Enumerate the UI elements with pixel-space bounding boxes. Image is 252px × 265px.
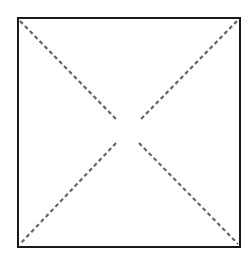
diagonal-center-to-bottom-right [139, 143, 238, 244]
diagram-canvas [0, 0, 252, 265]
diagonal-center-to-bottom-left [20, 143, 116, 244]
diagonal-top-right-to-center [141, 21, 237, 119]
diagonal-top-left-to-center [20, 21, 116, 119]
dashed-diagonals [20, 21, 238, 244]
